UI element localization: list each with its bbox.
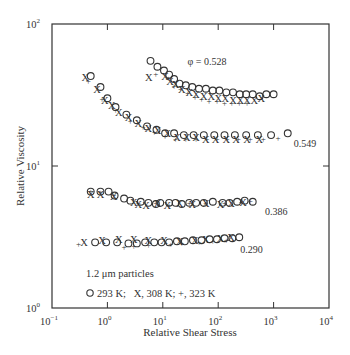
plus-marker-icon: + [214,134,219,144]
plus-marker-icon: + [261,134,266,144]
plus-marker-icon: + [98,187,103,197]
plus-marker-icon: + [99,94,104,104]
plus-marker-icon: + [239,197,244,207]
x-axis-label: Relative Shear Stress [143,326,236,338]
y-axis-ticks: 100101102 [26,17,329,314]
plus-marker-icon: + [244,98,249,108]
x-marker-icon: X [258,93,266,104]
plus-marker-icon: + [237,98,242,108]
plus-marker-icon: + [183,134,188,144]
plus-marker-icon: + [214,96,219,106]
plus-marker-icon: + [222,98,227,108]
plus-marker-icon: + [236,134,241,144]
plus-marker-icon: + [275,133,280,143]
plus-marker-icon: + [122,242,127,252]
x-tick-label: 100 [97,314,112,327]
viscosity-chart: 10−1100101102103104 100101102 XXXXXXXXXX… [0,0,350,355]
plus-marker-icon: + [146,240,151,250]
circle-marker-icon [147,57,154,64]
series-label-phi-0.549: 0.549 [294,138,317,149]
plus-marker-icon: + [224,235,229,245]
x-marker-icon: X [142,200,150,211]
y-tick-label: 102 [26,17,41,30]
plus-marker-icon: + [153,69,158,79]
x-marker-icon: X [98,235,106,246]
y-axis-label: Relative Viscosity [14,125,26,206]
x-marker-icon: X [145,72,153,83]
y-tick-label: 100 [26,301,41,314]
series-label-phi-0.386: 0.386 [265,206,288,217]
plus-marker-icon: + [194,134,199,144]
x-marker-icon: X [227,198,235,209]
plus-marker-icon: + [88,186,93,196]
circle-marker-icon [209,198,216,205]
plus-marker-icon: + [199,94,204,104]
circle-marker-icon [284,130,291,137]
plus-marker-icon: + [172,81,177,91]
plus-marker-icon: + [76,239,81,249]
plus-marker-icon: + [166,73,171,83]
circle-marker-icon [236,234,243,241]
series-label-phi-0.290: 0.290 [240,244,263,255]
legend-circle-marker-icon [87,290,93,296]
plus-marker-icon: + [222,198,227,208]
x-marker-icon: X [202,234,210,245]
circle-marker-icon [270,91,277,98]
x-tick-label: 103 [264,314,279,327]
plus-marker-icon: + [179,238,184,248]
plus-marker-icon: + [185,88,190,98]
plus-marker-icon: + [178,84,183,94]
plus-marker-icon: + [192,92,197,102]
y-tick-label: 101 [26,159,41,172]
plus-marker-icon: + [86,76,91,86]
x-tick-label: 10−1 [40,314,58,327]
plus-marker-icon: + [203,198,208,208]
plus-marker-icon: + [128,116,133,126]
series-label-phi-0.528: φ = 0.528 [188,56,227,67]
plus-marker-icon: + [152,127,157,137]
plus-marker-icon: + [196,237,201,247]
plus-marker-icon: + [173,134,178,144]
plus-marker-icon: + [187,198,192,208]
plus-marker-icon: + [136,198,141,208]
legend: 1.2 μm particles 293 K; X, 308 K; +, 323… [86,268,216,299]
plus-marker-icon: + [113,105,118,115]
data-points: XXXXXXXXXXXXXXXX+++++++++++++XXXXXXXXXXX… [76,57,291,252]
x-marker-icon: X [80,237,88,248]
plus-marker-icon: + [229,98,234,108]
plus-marker-icon: + [141,122,146,132]
plus-marker-icon: + [248,196,253,206]
plus-marker-icon: + [167,200,172,210]
plus-marker-icon: + [163,131,168,141]
circle-marker-icon [268,132,275,139]
plus-marker-icon: + [206,96,211,106]
x-marker-icon: X [176,198,184,209]
x-marker-icon: X [160,235,168,246]
plus-marker-icon: + [131,241,136,251]
plus-marker-icon: + [210,236,215,246]
x-tick-label: 104 [319,314,334,327]
plus-marker-icon: + [204,134,209,144]
x-axis-ticks: 10−1100101102103104 [40,24,333,327]
legend-title: 1.2 μm particles [86,268,154,279]
plus-marker-icon: + [111,190,116,200]
plus-marker-icon: + [225,134,230,144]
plus-marker-icon: + [248,134,253,144]
legend-text: 293 K; X, 308 K; +, 323 K [97,288,216,299]
plus-marker-icon: + [153,198,158,208]
plus-marker-icon: + [168,239,173,249]
